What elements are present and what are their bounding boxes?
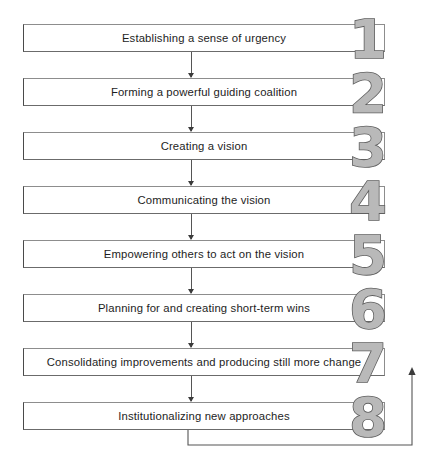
- step-label-7: Consolidating improvements and producing…: [23, 348, 385, 376]
- step-label-2: Forming a powerful guiding coalition: [23, 78, 385, 106]
- step-label-4: Communicating the vision: [23, 186, 385, 214]
- connector-5-to-6: [187, 268, 196, 293]
- step-7: Consolidating improvements and producing…: [23, 348, 385, 376]
- step-label-8: Institutionalizing new approaches: [23, 402, 385, 430]
- connector-6-to-7: [187, 322, 196, 347]
- step-3: Creating a vision 3: [23, 132, 385, 160]
- step-6: Planning for and creating short-term win…: [23, 294, 385, 322]
- step-8: Institutionalizing new approaches 8: [23, 402, 385, 430]
- step-4: Communicating the vision 4: [23, 186, 385, 214]
- connector-1-to-2: [187, 52, 196, 77]
- connector-7-to-8: [187, 376, 196, 401]
- step-1: Establishing a sense of urgency 1: [23, 24, 385, 52]
- connector-4-to-5: [187, 214, 196, 239]
- step-5: Empowering others to act on the vision 5: [23, 240, 385, 268]
- step-label-5: Empowering others to act on the vision: [23, 240, 385, 268]
- connector-3-to-4: [187, 160, 196, 185]
- step-2: Forming a powerful guiding coalition 2: [23, 78, 385, 106]
- change-process-diagram: Establishing a sense of urgency 1 Formin…: [0, 0, 425, 463]
- step-label-6: Planning for and creating short-term win…: [23, 294, 385, 322]
- arrowhead-up-icon: [408, 367, 415, 375]
- step-label-1: Establishing a sense of urgency: [23, 24, 385, 52]
- step-label-3: Creating a vision: [23, 132, 385, 160]
- connector-2-to-3: [187, 106, 196, 131]
